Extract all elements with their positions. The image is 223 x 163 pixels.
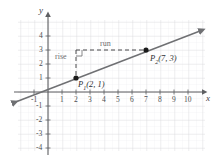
x-tick-label-2: 2: [74, 96, 78, 104]
point-p2-coords: (7, 3): [158, 53, 176, 63]
x-tick-label-9: 9: [172, 96, 176, 104]
graph-canvas: [0, 0, 223, 163]
y-tick-label-2: 2: [39, 60, 43, 68]
point-p1-label: P1(2, 1): [78, 80, 105, 91]
x-tick-label-1: 1: [60, 96, 64, 104]
rise-label: rise: [55, 53, 67, 61]
y-tick-label-neg2: -2: [36, 116, 42, 124]
y-tick-label-neg4: -4: [36, 144, 42, 152]
point-p2-label: P2(7, 3): [150, 54, 177, 65]
point-p2: [143, 47, 148, 52]
run-label: run: [100, 40, 111, 48]
x-tick-label-5: 5: [116, 96, 120, 104]
y-tick-label-neg3: -3: [36, 130, 42, 138]
x-tick-label-3: 3: [88, 96, 92, 104]
coordinate-plane-figure: -1 1 2 3 4 5 6 7 8 9 10 4 3 2 1 -1 -2 -3…: [0, 0, 223, 163]
x-tick-label-6: 6: [130, 96, 134, 104]
y-tick-label-neg1: -1: [36, 102, 42, 110]
x-tick-label-10: 10: [184, 96, 192, 104]
point-p1-coords: (2, 1): [86, 79, 104, 89]
x-tick-label-8: 8: [158, 96, 162, 104]
y-tick-label-4: 4: [39, 32, 43, 40]
y-axis-label: y: [39, 6, 43, 15]
y-tick-label-1: 1: [39, 74, 43, 82]
x-axis-label: x: [206, 94, 210, 103]
y-tick-label-3: 3: [39, 46, 43, 54]
x-tick-label-7: 7: [144, 96, 148, 104]
x-tick-label-4: 4: [102, 96, 106, 104]
